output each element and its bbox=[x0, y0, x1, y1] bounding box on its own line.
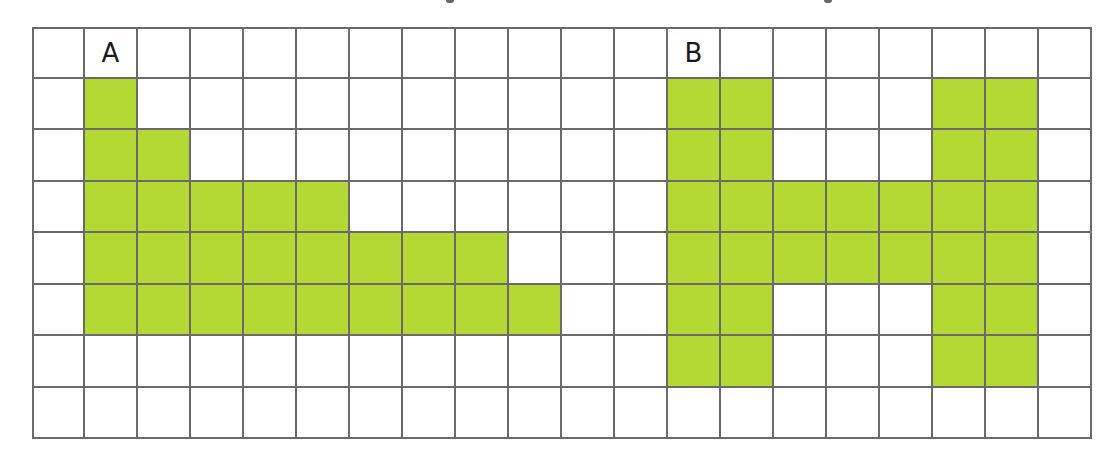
shape-b-square bbox=[774, 233, 827, 285]
shape-a-square bbox=[138, 130, 191, 182]
shape-b-square bbox=[721, 233, 774, 285]
shape-label: A bbox=[102, 40, 120, 66]
grid-cell bbox=[827, 336, 880, 388]
grid-cell bbox=[1039, 27, 1092, 79]
shape-b-square bbox=[721, 285, 774, 337]
grid-cell bbox=[456, 336, 509, 388]
grid-cell bbox=[350, 336, 403, 388]
shape-a-square bbox=[509, 285, 562, 337]
grid-cell bbox=[880, 336, 933, 388]
shape-b-square bbox=[668, 233, 721, 285]
shape-b-square bbox=[933, 79, 986, 131]
grid-cell bbox=[297, 130, 350, 182]
grid-cell bbox=[297, 388, 350, 440]
shape-a-square bbox=[456, 233, 509, 285]
grid-cell bbox=[615, 388, 668, 440]
grid-cell bbox=[933, 27, 986, 79]
grid-cell bbox=[403, 130, 456, 182]
grid-cell bbox=[880, 130, 933, 182]
shape-label: B bbox=[685, 40, 703, 66]
grid-cell bbox=[32, 388, 85, 440]
grid-cell bbox=[403, 27, 456, 79]
shape-b-square bbox=[774, 182, 827, 234]
shape-a-square bbox=[244, 285, 297, 337]
grid-cell bbox=[85, 388, 138, 440]
shape-b-square bbox=[986, 130, 1039, 182]
shape-a-square bbox=[85, 233, 138, 285]
grid-cell: A bbox=[85, 27, 138, 79]
grid-cell bbox=[933, 388, 986, 440]
grid-cell bbox=[244, 336, 297, 388]
shape-a-square bbox=[297, 285, 350, 337]
grid-cell bbox=[456, 182, 509, 234]
shape-a-square bbox=[191, 233, 244, 285]
grid-cell bbox=[562, 27, 615, 79]
shape-a-square bbox=[297, 182, 350, 234]
grid-cell bbox=[509, 182, 562, 234]
grid-cell bbox=[350, 27, 403, 79]
shape-b-square bbox=[986, 79, 1039, 131]
shape-a-square bbox=[85, 285, 138, 337]
grid-cell bbox=[191, 336, 244, 388]
shape-b-square bbox=[668, 336, 721, 388]
grid-cell bbox=[297, 27, 350, 79]
grid-cell bbox=[615, 27, 668, 79]
shape-b-square bbox=[986, 285, 1039, 337]
shape-a-square bbox=[244, 233, 297, 285]
grid-cell bbox=[562, 388, 615, 440]
grid-cell bbox=[32, 27, 85, 79]
shape-b-square bbox=[668, 182, 721, 234]
grid-cell bbox=[615, 336, 668, 388]
grid-cell bbox=[509, 130, 562, 182]
grid-cell bbox=[562, 79, 615, 131]
grid-cell bbox=[509, 336, 562, 388]
grid-cell bbox=[191, 388, 244, 440]
grid-cell bbox=[615, 233, 668, 285]
grid-cell bbox=[191, 27, 244, 79]
shape-b-square bbox=[827, 233, 880, 285]
grid-cell bbox=[244, 130, 297, 182]
grid-cell bbox=[85, 336, 138, 388]
shape-b-square bbox=[986, 336, 1039, 388]
grid-cell bbox=[880, 285, 933, 337]
grid-cell bbox=[721, 388, 774, 440]
grid-cell bbox=[827, 79, 880, 131]
shape-b-square bbox=[880, 182, 933, 234]
shape-a-square bbox=[350, 285, 403, 337]
grid-cell bbox=[191, 130, 244, 182]
cropped-title-fragment bbox=[824, 0, 832, 3]
shape-a-square bbox=[138, 182, 191, 234]
shape-a-square bbox=[138, 233, 191, 285]
grid-cell bbox=[1039, 233, 1092, 285]
shape-b-square bbox=[933, 336, 986, 388]
grid-cell bbox=[403, 336, 456, 388]
grid-cell bbox=[562, 285, 615, 337]
grid-cell bbox=[509, 27, 562, 79]
shape-a-square bbox=[350, 233, 403, 285]
grid-cell bbox=[827, 285, 880, 337]
grid-cell bbox=[986, 388, 1039, 440]
shape-b-square bbox=[933, 285, 986, 337]
grid-cell bbox=[986, 27, 1039, 79]
grid-cell bbox=[244, 27, 297, 79]
shape-a-square bbox=[138, 285, 191, 337]
grid-cell bbox=[880, 79, 933, 131]
grid-cell bbox=[615, 285, 668, 337]
grid-cell bbox=[32, 130, 85, 182]
cropped-title-fragment bbox=[446, 0, 454, 3]
grid-cell bbox=[456, 388, 509, 440]
grid-cell bbox=[138, 336, 191, 388]
grid-cell bbox=[350, 388, 403, 440]
grid-cell bbox=[615, 182, 668, 234]
shape-b-square bbox=[880, 233, 933, 285]
grid-cell bbox=[403, 388, 456, 440]
shape-b-square bbox=[986, 182, 1039, 234]
grid-cell bbox=[509, 79, 562, 131]
grid-cell bbox=[244, 388, 297, 440]
grid-cell bbox=[350, 130, 403, 182]
grid-cell bbox=[562, 182, 615, 234]
grid-cell bbox=[32, 336, 85, 388]
grid-cell bbox=[1039, 336, 1092, 388]
shape-b-square bbox=[721, 336, 774, 388]
shape-b-square bbox=[668, 79, 721, 131]
